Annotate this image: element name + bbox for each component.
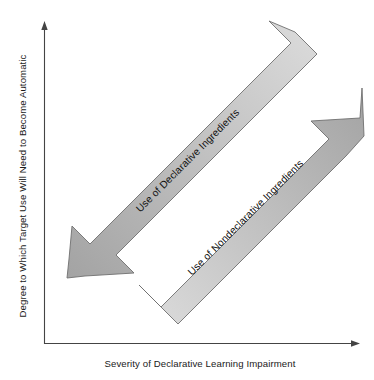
arrow-nondeclarative-label: Use of Nondeclarative Ingredients — [186, 158, 306, 278]
arrow-declarative-label: Use of Declarative Ingredients — [134, 107, 241, 214]
y-axis-label: Degree to Which Target Use Will Need to … — [17, 54, 28, 317]
x-axis-label: Severity of Declarative Learning Impairm… — [105, 358, 296, 369]
y-axis-arrowhead-icon — [41, 21, 47, 30]
x-axis-arrowhead-icon — [351, 340, 360, 346]
diagram-figure: Use of Declarative Ingredients Use of No… — [0, 0, 374, 380]
arrow-declarative: Use of Declarative Ingredients — [67, 21, 317, 278]
arrow-nondeclarative: Use of Nondeclarative Ingredients — [139, 88, 364, 324]
diagram-canvas: Use of Declarative Ingredients Use of No… — [0, 0, 374, 380]
